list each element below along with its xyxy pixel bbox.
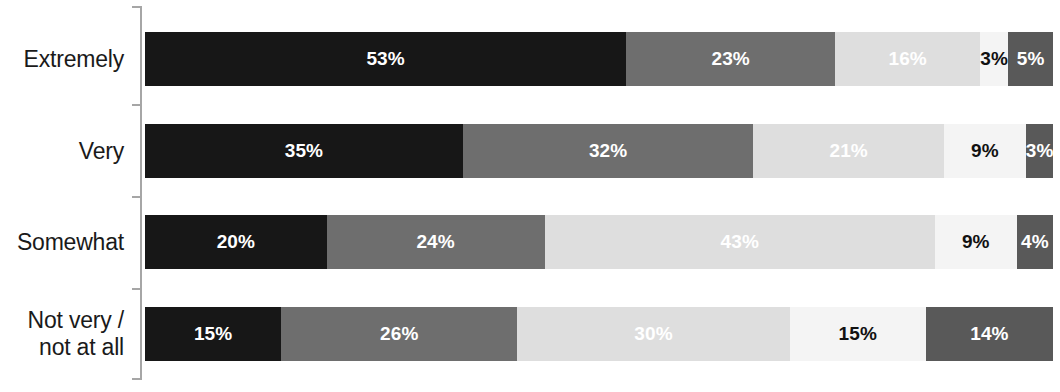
bar-segment-3: 30% xyxy=(517,307,789,361)
stacked-bar: 53%23%16%3%5% xyxy=(145,32,1053,86)
segment-value-label: 9% xyxy=(962,231,990,253)
bar-segment-5: 5% xyxy=(1008,32,1053,86)
stacked-bar-chart: Extremely53%23%16%3%5%Very35%32%21%9%3%S… xyxy=(0,0,1060,392)
bar-row: Very35%32%21%9%3% xyxy=(0,124,1060,178)
segment-value-label: 24% xyxy=(416,231,454,253)
bar-segment-5: 3% xyxy=(1026,124,1053,178)
axis-tick-1 xyxy=(132,104,141,106)
segment-value-label: 35% xyxy=(285,140,323,162)
category-label-4: Not very /not at all xyxy=(0,307,124,361)
segment-value-label: 5% xyxy=(1017,48,1045,70)
bar-segment-5: 14% xyxy=(926,307,1053,361)
segment-value-label: 20% xyxy=(217,231,255,253)
bar-segment-2: 32% xyxy=(463,124,754,178)
bar-segment-3: 16% xyxy=(835,32,980,86)
category-label-line: Extremely xyxy=(24,46,124,73)
segment-value-label: 23% xyxy=(711,48,749,70)
category-label-line: Very xyxy=(79,138,124,165)
segment-value-label: 15% xyxy=(839,323,877,345)
segment-value-label: 32% xyxy=(589,140,627,162)
bar-segment-4: 15% xyxy=(790,307,926,361)
bar-segment-4: 3% xyxy=(980,32,1008,86)
axis-tick-2 xyxy=(132,196,141,198)
segment-value-label: 3% xyxy=(1026,140,1053,162)
stacked-bar: 35%32%21%9%3% xyxy=(145,124,1053,178)
category-label-1: Extremely xyxy=(0,32,124,86)
segment-value-label: 43% xyxy=(721,231,759,253)
axis-cap-top xyxy=(132,6,141,8)
bar-segment-2: 24% xyxy=(327,215,545,269)
bar-segment-1: 35% xyxy=(145,124,463,178)
segment-value-label: 9% xyxy=(971,140,999,162)
bar-segment-2: 26% xyxy=(281,307,517,361)
segment-value-label: 26% xyxy=(380,323,418,345)
segment-value-label: 53% xyxy=(366,48,404,70)
bar-segment-4: 9% xyxy=(944,124,1026,178)
stacked-bar: 15%26%30%15%14% xyxy=(145,307,1053,361)
bar-segment-1: 15% xyxy=(145,307,281,361)
bar-segment-1: 53% xyxy=(145,32,626,86)
category-label-2: Very xyxy=(0,124,124,178)
bar-segment-5: 4% xyxy=(1017,215,1053,269)
bar-segment-3: 43% xyxy=(545,215,935,269)
bar-segment-1: 20% xyxy=(145,215,327,269)
category-label-3: Somewhat xyxy=(0,215,124,269)
bar-segment-3: 21% xyxy=(753,124,944,178)
bar-row: Extremely53%23%16%3%5% xyxy=(0,32,1060,86)
category-label-line: Somewhat xyxy=(17,229,124,256)
axis-tick-3 xyxy=(132,288,141,290)
segment-value-label: 3% xyxy=(980,48,1008,70)
axis-cap-bottom xyxy=(132,378,141,380)
category-label-line: Not very / xyxy=(28,307,124,334)
stacked-bar: 20%24%43%9%4% xyxy=(145,215,1053,269)
segment-value-label: 30% xyxy=(634,323,672,345)
segment-value-label: 21% xyxy=(830,140,868,162)
bar-row: Not very /not at all15%26%30%15%14% xyxy=(0,307,1060,361)
bar-segment-2: 23% xyxy=(626,32,835,86)
category-label-line: not at all xyxy=(39,334,124,361)
bar-row: Somewhat20%24%43%9%4% xyxy=(0,215,1060,269)
segment-value-label: 14% xyxy=(970,323,1008,345)
segment-value-label: 15% xyxy=(194,323,232,345)
segment-value-label: 16% xyxy=(889,48,927,70)
bar-segment-4: 9% xyxy=(935,215,1017,269)
segment-value-label: 4% xyxy=(1021,231,1049,253)
